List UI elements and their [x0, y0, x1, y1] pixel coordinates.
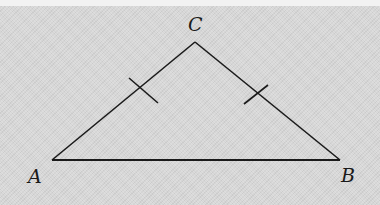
tick-mark-cb: [244, 85, 268, 104]
triangle-diagram: C A B: [0, 0, 380, 205]
vertex-label-a: A: [26, 165, 42, 187]
side-cb: [195, 42, 340, 160]
diagram-canvas: C A B: [0, 0, 380, 205]
vertex-label-b: B: [340, 164, 355, 186]
tick-mark-ac: [129, 78, 158, 103]
vertex-label-c: C: [188, 13, 203, 35]
side-ac: [52, 42, 195, 160]
